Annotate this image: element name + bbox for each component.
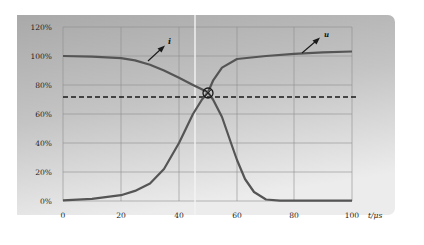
plot-layer: i u 120% 100% 80% 60% 40% 20% 0% 0 20 40…	[0, 0, 424, 245]
series-i-label: i	[168, 36, 171, 46]
series-i-line	[63, 56, 352, 201]
x-tick-20: 20	[116, 211, 126, 220]
y-tick-0: 0%	[40, 197, 52, 206]
x-tick-0: 0	[61, 211, 66, 220]
series-u-label: u	[324, 30, 329, 39]
x-tick-80: 80	[289, 211, 299, 220]
arrow-i-icon	[148, 46, 165, 62]
x-tick-40: 40	[174, 211, 184, 220]
series-u-line	[63, 52, 352, 201]
y-tick-120: 120%	[31, 23, 52, 32]
arrow-u-icon	[302, 38, 320, 54]
x-tick-60: 60	[232, 211, 242, 220]
y-tick-20: 20%	[35, 168, 52, 177]
x-tick-100: 100	[345, 211, 360, 220]
x-axis-label: t/μs	[368, 211, 382, 220]
y-tick-60: 60%	[35, 110, 52, 119]
y-tick-40: 40%	[35, 139, 52, 148]
y-tick-100: 100%	[31, 52, 52, 61]
y-tick-80: 80%	[35, 81, 52, 90]
